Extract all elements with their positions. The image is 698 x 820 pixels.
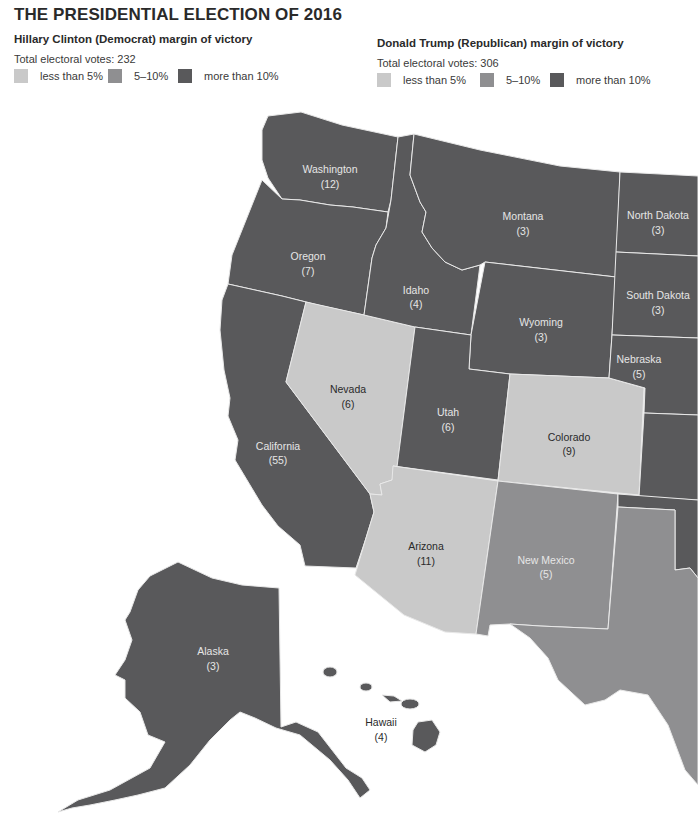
label-oregon-name: Oregon	[290, 250, 325, 262]
label-idaho-name: Idaho	[403, 284, 429, 296]
label-california-name: California	[256, 440, 301, 452]
label-south-dakota-name: South Dakota	[626, 289, 690, 301]
label-north-dakota-name: North Dakota	[627, 209, 689, 221]
label-idaho-votes: (4)	[410, 298, 423, 310]
state-alaska[interactable]	[58, 562, 370, 812]
label-washington-votes: (12)	[321, 178, 340, 190]
label-south-dakota-votes: (3)	[652, 304, 665, 316]
state-washington[interactable]	[262, 112, 398, 212]
label-hawaii-votes: (4)	[375, 731, 388, 743]
label-hawaii-name: Hawaii	[365, 716, 397, 728]
label-montana-name: Montana	[503, 210, 544, 222]
us-west-map: Washington (12) Oregon (7) California (5…	[0, 0, 698, 820]
label-montana-votes: (3)	[517, 225, 530, 237]
label-california-votes: (55)	[269, 454, 288, 466]
label-colorado-name: Colorado	[548, 431, 591, 443]
label-washington-name: Washington	[302, 163, 357, 175]
label-wyoming-name: Wyoming	[519, 316, 563, 328]
label-wyoming-votes: (3)	[535, 331, 548, 343]
label-alaska-votes: (3)	[207, 660, 220, 672]
label-nebraska-name: Nebraska	[617, 353, 662, 365]
label-oregon-votes: (7)	[302, 265, 315, 277]
label-alaska-name: Alaska	[197, 645, 229, 657]
label-arizona-votes: (11)	[417, 555, 435, 567]
label-new-mexico-name: New Mexico	[517, 554, 574, 566]
state-kansas-partial[interactable]	[639, 413, 698, 500]
label-utah-name: Utah	[437, 406, 459, 418]
label-colorado-votes: (9)	[563, 445, 576, 457]
state-montana[interactable]	[410, 134, 620, 277]
label-utah-votes: (6)	[442, 421, 455, 433]
label-arizona-name: Arizona	[408, 540, 444, 552]
label-nevada-name: Nevada	[330, 383, 366, 395]
label-new-mexico-votes: (5)	[540, 568, 553, 580]
label-nebraska-votes: (5)	[633, 368, 646, 380]
label-nevada-votes: (6)	[342, 398, 355, 410]
label-north-dakota-votes: (3)	[652, 224, 665, 236]
